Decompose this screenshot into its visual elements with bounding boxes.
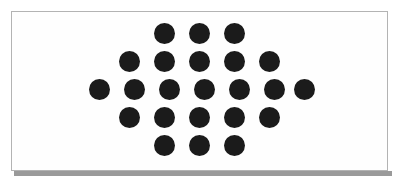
pattern-dot bbox=[154, 23, 175, 44]
pattern-dot bbox=[119, 107, 140, 128]
pattern-dot bbox=[189, 107, 210, 128]
dot-pattern-field bbox=[12, 12, 387, 170]
pattern-dot bbox=[229, 79, 250, 100]
pattern-dot bbox=[89, 79, 110, 100]
image-canvas bbox=[0, 0, 402, 186]
pattern-dot bbox=[294, 79, 315, 100]
pattern-dot bbox=[189, 135, 210, 156]
pattern-dot bbox=[224, 51, 245, 72]
pattern-dot bbox=[224, 23, 245, 44]
white-panel bbox=[11, 11, 388, 171]
pattern-dot bbox=[194, 79, 215, 100]
pattern-dot bbox=[224, 135, 245, 156]
pattern-dot bbox=[189, 23, 210, 44]
pattern-dot bbox=[159, 79, 180, 100]
pattern-dot bbox=[154, 107, 175, 128]
pattern-dot bbox=[224, 107, 245, 128]
pattern-dot bbox=[259, 107, 280, 128]
pattern-dot bbox=[264, 79, 285, 100]
pattern-dot bbox=[124, 79, 145, 100]
pattern-dot bbox=[189, 51, 210, 72]
pattern-dot bbox=[259, 51, 280, 72]
panel-drop-shadow bbox=[14, 171, 392, 176]
pattern-dot bbox=[119, 51, 140, 72]
pattern-dot bbox=[154, 51, 175, 72]
pattern-dot bbox=[154, 135, 175, 156]
